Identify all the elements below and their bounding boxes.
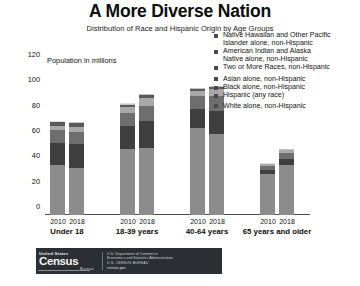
y-axis-line bbox=[44, 63, 45, 215]
legend-swatch-icon bbox=[214, 77, 218, 81]
y-axis-tick-label: 0 bbox=[36, 202, 40, 211]
bar-segment bbox=[69, 144, 84, 168]
legend-swatch-icon bbox=[214, 66, 218, 70]
department-block: U.S. Department of Commerce Economics an… bbox=[107, 252, 173, 270]
legend-swatch-icon bbox=[214, 104, 218, 108]
bar-segment bbox=[120, 126, 135, 148]
legend-item[interactable]: Black alone, non-Hispanic bbox=[214, 83, 360, 91]
x-axis-year-label: 2018 bbox=[131, 218, 163, 225]
bar-segment bbox=[139, 121, 154, 148]
bar-segment bbox=[120, 113, 135, 126]
stacked-bar[interactable] bbox=[69, 122, 84, 215]
bar-segment bbox=[209, 134, 224, 215]
bar-segment bbox=[69, 168, 84, 215]
logo-census-wordmark: Census bbox=[39, 256, 98, 267]
stacked-bar[interactable] bbox=[50, 121, 65, 215]
legend-item-label-cont: Islander alone, non-Hispanic bbox=[223, 39, 313, 47]
chart-page: A More Diverse Nation Distribution of Ra… bbox=[0, 0, 360, 286]
census-logo: United States Census Bureau bbox=[36, 248, 98, 274]
dept-line-4: census.gov bbox=[107, 266, 173, 271]
y-axis-tick-label: 80 bbox=[32, 100, 40, 109]
y-axis-tick-label: 60 bbox=[32, 126, 40, 135]
x-axis-year-label: 2018 bbox=[201, 218, 233, 225]
legend-item-label: Two or More Races, non-Hispanic bbox=[223, 63, 330, 71]
x-axis-year-label: 2018 bbox=[271, 218, 303, 225]
stacked-bar[interactable] bbox=[139, 94, 154, 215]
legend-item-label: White alone, non-Hispanic bbox=[223, 102, 306, 110]
bar-segment bbox=[120, 149, 135, 216]
y-axis-tick-label: 100 bbox=[28, 75, 40, 84]
stacked-bar[interactable] bbox=[279, 149, 294, 215]
legend-swatch-icon bbox=[214, 50, 218, 54]
bar-segment bbox=[190, 128, 205, 215]
page-title: A More Diverse Nation bbox=[0, 1, 360, 22]
legend-item[interactable]: Hispanic (any race) bbox=[214, 91, 360, 99]
bar-segment bbox=[69, 132, 84, 144]
legend-item-label: American Indian and Alaska bbox=[223, 47, 311, 55]
bar-segment bbox=[190, 96, 205, 109]
bar-segment bbox=[139, 148, 154, 215]
x-axis-group-label: 65 years and older bbox=[217, 227, 337, 236]
stacked-bar[interactable] bbox=[120, 103, 135, 215]
y-axis-tick-label: 120 bbox=[28, 50, 40, 59]
x-axis-year-label: 2018 bbox=[61, 218, 93, 225]
bar-segment bbox=[190, 109, 205, 128]
legend-item[interactable]: Native Hawaiian and Other PacificIslande… bbox=[214, 31, 360, 47]
bar-segment bbox=[139, 98, 154, 106]
bar-segment bbox=[50, 165, 65, 215]
chart-legend: Native Hawaiian and Other PacificIslande… bbox=[214, 31, 360, 110]
legend-swatch-icon bbox=[214, 94, 218, 98]
bar-segment bbox=[50, 143, 65, 165]
bar-segment bbox=[279, 165, 294, 215]
footer-divider bbox=[102, 252, 103, 270]
legend-item-label: Black alone, non-Hispanic bbox=[223, 83, 305, 91]
legend-item[interactable]: White alone, non-Hispanic bbox=[214, 102, 360, 110]
stacked-bar[interactable] bbox=[260, 163, 275, 215]
bar-group: 2010201818-39 years bbox=[120, 63, 172, 215]
y-axis-tick-label: 40 bbox=[32, 151, 40, 160]
census-footer-banner: United States Census Bureau U.S. Departm… bbox=[36, 248, 222, 274]
legend-item-label: Asian alone, non-Hispanic bbox=[223, 75, 305, 83]
bar-group: 20102018Under 18 bbox=[50, 63, 102, 215]
legend-swatch-icon bbox=[214, 34, 218, 38]
legend-item-label-cont: Native alone, non-Hispanic bbox=[223, 55, 308, 63]
legend-swatch-icon bbox=[214, 86, 218, 90]
legend-item[interactable]: Asian alone, non-Hispanic bbox=[214, 75, 360, 83]
y-axis-tick-label: 20 bbox=[32, 176, 40, 185]
bar-segment bbox=[50, 130, 65, 143]
legend-item[interactable]: American Indian and AlaskaNative alone, … bbox=[214, 47, 360, 63]
stacked-bar[interactable] bbox=[190, 88, 205, 215]
legend-item[interactable]: Two or More Races, non-Hispanic bbox=[214, 63, 360, 71]
legend-item-label: Hispanic (any race) bbox=[223, 91, 284, 99]
bar-segment bbox=[209, 111, 224, 134]
legend-item-label: Native Hawaiian and Other Pacific bbox=[223, 31, 331, 39]
bar-segment bbox=[139, 106, 154, 121]
logo-underline bbox=[38, 270, 90, 271]
bar-segment bbox=[260, 174, 275, 215]
